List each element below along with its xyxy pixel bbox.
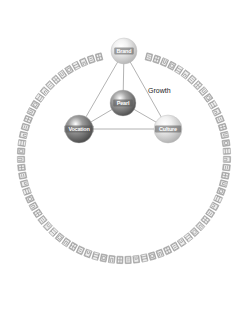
glyph-tile-icon [217,187,226,195]
glyph-tile-icon [49,227,58,236]
glyph-tile-icon [201,215,210,224]
glyph-tile-icon [38,215,47,224]
glyph-tile-icon [87,55,95,64]
glyph-tile-icon [40,87,49,96]
node-label: Culture [159,126,177,132]
glyph-tile-icon [35,93,44,102]
glyph-tile-icon [117,256,123,263]
edge-labels: Growth [148,87,171,94]
glyph-tile-icon [181,70,190,79]
glyph-tile-icon [72,61,81,70]
glyph-tile-icon [206,209,215,218]
glyph-ring [17,53,230,264]
glyph-tile-icon [18,164,26,171]
glyph-tile-icon [163,246,171,255]
node-vocation[interactable]: Vocation [64,115,93,143]
node-brand[interactable]: Brand [111,38,137,64]
glyph-tile-icon [170,242,179,251]
glyph-tile-icon [190,227,199,236]
node-culture[interactable]: Culture [154,115,182,143]
glyph-tile-icon [108,255,115,263]
glyph-tile-icon [79,58,87,67]
glyph-tile-icon [21,123,30,131]
glyph-tile-icon [220,131,228,138]
glyph-tile-icon [19,131,27,138]
glyph-tile-icon [208,100,217,109]
glyph-tile-icon [148,252,156,261]
glyph-tile-icon [92,252,100,261]
glyph-tile-icon [223,148,231,154]
glyph-tile-icon [156,249,164,258]
glyph-tile-icon [174,65,183,74]
node-pearl[interactable]: Pearl [110,90,136,116]
glyph-tile-icon [62,238,71,247]
glyph-tile-icon [184,233,193,242]
glyph-tile-icon [65,65,74,74]
glyph-tile-icon [218,123,227,131]
glyph-tile-icon [210,202,219,211]
glyph-tile-icon [219,180,228,188]
node-label: Pearl [117,100,130,106]
glyph-tile-icon [100,254,107,262]
glyph-tile-icon [23,187,32,195]
glyph-tile-icon [153,55,161,64]
glyph-tile-icon [76,246,84,255]
glyph-tile-icon [177,238,186,247]
glyph-tile-icon [55,233,64,242]
glyph-tile-icon [196,222,205,231]
glyph-tile-icon [20,180,29,188]
glyph-tile-icon [51,75,60,84]
glyph-tile-icon [223,156,230,162]
glyph-tile-icon [31,100,40,109]
glyph-tile-icon [141,254,148,262]
glyph-tile-icon [33,209,42,218]
glyph-tile-icon [25,195,34,203]
glyph-tile-icon [84,249,92,258]
glyph-tile-icon [19,172,27,179]
glyph-tile-icon [43,222,52,231]
glyph-tile-icon [18,140,26,147]
glyph-tile-icon [145,53,153,61]
glyph-tile-icon [215,115,224,123]
glyph-tile-icon [221,172,229,179]
glyph-tile-icon [95,53,103,61]
glyph-tile-icon [125,256,131,263]
glyph-tile-icon [223,164,231,171]
node-label: Brand [117,48,132,54]
glyph-tile-icon [69,242,78,251]
glyph-tile-icon [160,58,168,67]
diagram-canvas: BrandPearlVocationCulture Growth [0,0,247,325]
glyph-tile-icon [24,115,33,123]
glyph-tile-icon [167,61,176,70]
glyph-tile-icon [212,108,221,117]
glyph-tile-icon [45,81,54,90]
glyph-tile-icon [187,75,196,84]
node-label: Vocation [68,126,90,132]
glyph-tile-icon [222,140,230,147]
glyph-tile-icon [193,81,202,90]
glyph-tile-icon [214,195,223,203]
glyph-tile-icon [27,108,36,117]
glyph-tile-icon [199,87,208,96]
diagram-svg: BrandPearlVocationCulture Growth [0,0,247,325]
glyph-tile-icon [17,156,24,162]
glyph-tile-icon [133,255,140,263]
glyph-tile-icon [58,70,67,79]
glyph-tile-icon [204,93,213,102]
growth-label: Growth [148,87,171,94]
glyph-tile-icon [17,148,25,154]
glyph-tile-icon [29,202,38,211]
